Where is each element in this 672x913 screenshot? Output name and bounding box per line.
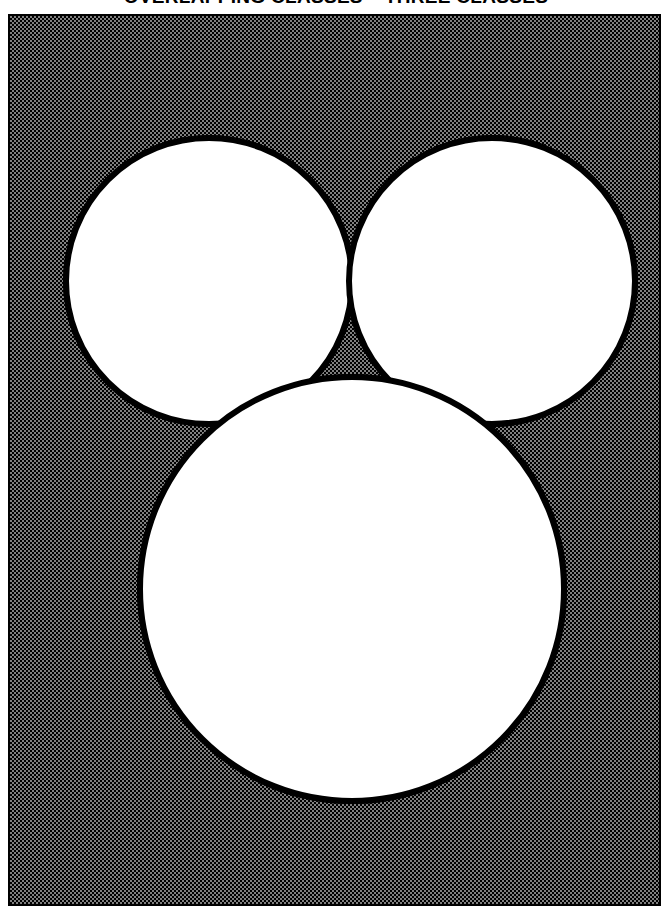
figure-frame xyxy=(8,14,661,906)
figure-title: OVERLAPPING CLASSES – THREE CLASSES xyxy=(0,0,672,8)
page-root: OVERLAPPING CLASSES – THREE CLASSES xyxy=(0,0,672,913)
figure-title-clip: OVERLAPPING CLASSES – THREE CLASSES xyxy=(0,0,672,10)
venn-outline-lower-center xyxy=(140,377,564,801)
venn-diagram xyxy=(10,16,659,904)
